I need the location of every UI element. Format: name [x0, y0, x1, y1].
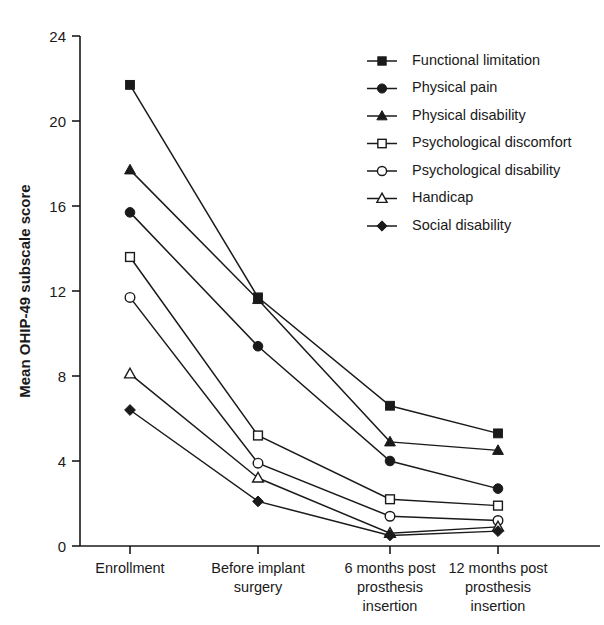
x-tick-label: prosthesis	[357, 579, 423, 595]
legend-item: Physical disability	[367, 107, 526, 123]
legend-item-label: Physical pain	[412, 79, 497, 95]
series-line	[130, 257, 498, 506]
series-line	[130, 212, 498, 488]
legend-item-label: Social disability	[412, 217, 512, 233]
y-tick-label: 8	[58, 368, 66, 385]
legend-item: Physical pain	[367, 79, 497, 95]
x-tick-label: insertion	[471, 598, 526, 614]
legend-item: Psychological discomfort	[367, 134, 572, 150]
open-circle-marker	[125, 293, 135, 303]
x-tick-label: 6 months post	[344, 560, 435, 576]
x-tick-label: insertion	[363, 598, 418, 614]
filled-square-marker	[494, 429, 503, 438]
filled-square-marker	[126, 80, 135, 89]
filled-circle-marker	[385, 456, 395, 466]
x-tick-label: 12 months post	[448, 560, 547, 576]
filled-circle-marker	[377, 84, 386, 93]
legend-item: Social disability	[367, 217, 512, 233]
open-triangle-marker	[125, 368, 136, 378]
chart-legend: Functional limitationPhysical painPhysic…	[367, 52, 572, 233]
filled-diamond-marker	[125, 405, 136, 416]
y-tick-label: 4	[58, 453, 66, 470]
open-square-marker	[126, 253, 135, 262]
series-physical-pain	[125, 208, 503, 494]
legend-item-label: Functional limitation	[412, 52, 540, 68]
filled-square-marker	[386, 401, 395, 410]
filled-circle-marker	[493, 484, 503, 494]
open-square-marker	[378, 139, 386, 147]
chart-container: 04812162024EnrollmentBefore implantsurge…	[0, 0, 604, 625]
filled-diamond-marker	[377, 221, 387, 231]
open-square-marker	[494, 501, 503, 510]
legend-item-label: Psychological disability	[412, 162, 561, 178]
filled-circle-marker	[125, 208, 135, 218]
axis-labels: Mean OHIP-49 subscale score	[16, 184, 33, 397]
series-handicap	[125, 368, 504, 537]
legend-item: Psychological disability	[367, 162, 561, 178]
y-tick-label: 24	[49, 28, 66, 45]
legend-item-label: Handicap	[412, 189, 473, 205]
y-tick-label: 20	[49, 113, 66, 130]
line-chart: 04812162024EnrollmentBefore implantsurge…	[0, 0, 604, 625]
series-line	[130, 410, 498, 535]
series-line	[130, 170, 498, 451]
series-physical-disability	[125, 164, 504, 454]
filled-circle-marker	[253, 341, 263, 351]
x-tick-label: surgery	[234, 579, 283, 595]
x-tick-label: Enrollment	[95, 560, 164, 576]
series-social-disability	[125, 405, 504, 541]
series-psychological-discomfort	[126, 253, 503, 510]
y-tick-label: 16	[49, 198, 66, 215]
open-circle-marker	[385, 511, 395, 521]
series-psychological-disability	[125, 293, 503, 526]
open-square-marker	[386, 495, 395, 504]
legend-item-label: Psychological discomfort	[412, 134, 572, 150]
y-axis-title: Mean OHIP-49 subscale score	[16, 184, 33, 397]
filled-square-marker	[378, 57, 386, 65]
legend-item-label: Physical disability	[412, 107, 526, 123]
legend-item: Functional limitation	[367, 52, 540, 68]
open-circle-marker	[377, 166, 386, 175]
filled-triangle-marker	[125, 164, 136, 174]
series-line	[130, 297, 498, 520]
y-tick-label: 0	[58, 538, 66, 555]
open-square-marker	[254, 431, 263, 440]
legend-item: Handicap	[367, 189, 473, 205]
filled-diamond-marker	[253, 496, 264, 507]
open-triangle-marker	[253, 472, 264, 482]
open-circle-marker	[253, 458, 263, 468]
y-tick-label: 12	[49, 283, 66, 300]
series-line	[130, 374, 498, 533]
x-tick-label: Before implant	[211, 560, 305, 576]
x-tick-label: prosthesis	[465, 579, 531, 595]
